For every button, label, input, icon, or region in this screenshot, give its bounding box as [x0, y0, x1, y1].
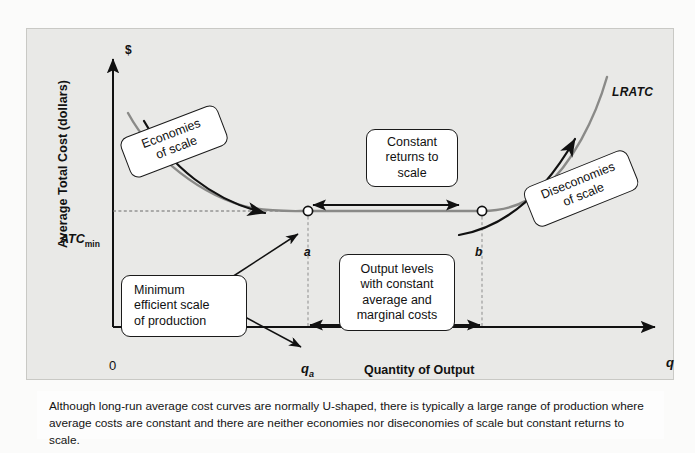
atc-min-subscript: min: [85, 239, 100, 249]
atc-min-tick-label: ATCmin: [60, 232, 100, 249]
callout-minimum-efficient-scale: Minimum efficient scale of production: [121, 275, 247, 337]
callout-output-line-1: Output levels: [349, 262, 445, 277]
callout-mes-line-3: of production: [134, 314, 234, 329]
origin-label: 0: [109, 358, 116, 373]
callout-output-line-2: with constant: [349, 277, 445, 292]
qa-base: q: [301, 361, 309, 376]
callout-constant-line-3: scale: [376, 166, 448, 181]
mes-pointer-arrow-to-a: [232, 234, 298, 277]
lratc-curve-label: LRATC: [612, 85, 653, 99]
callout-output-line-3: average and: [349, 293, 445, 308]
point-b-label: b: [475, 245, 482, 259]
callout-output-line-4: marginal costs: [349, 308, 445, 323]
figure-container: Average Total Cost (dollars) $ q 0 ATCmi…: [0, 0, 695, 453]
qa-tick-label: qa: [301, 361, 314, 379]
x-axis-label: Quantity of Output: [364, 363, 474, 377]
callout-constant-returns-to-scale: Constant returns to scale: [366, 129, 458, 187]
callout-output-levels: Output levels with constant average and …: [339, 254, 455, 331]
y-axis-unit-symbol: $: [125, 43, 132, 57]
point-a-marker: [303, 206, 312, 215]
figure-caption: Although long-run average cost curves ar…: [37, 391, 664, 439]
x-axis-variable-symbol: q: [666, 355, 674, 370]
callout-mes-line-2: efficient scale: [134, 298, 234, 313]
qa-subscript: a: [309, 369, 314, 379]
callout-constant-line-1: Constant: [376, 135, 448, 150]
callout-mes-line-1: Minimum: [134, 283, 234, 298]
atc-min-base: ATC: [60, 232, 85, 246]
plot-panel: Average Total Cost (dollars) $ q 0 ATCmi…: [26, 28, 674, 380]
point-b-marker: [477, 206, 486, 215]
callout-constant-line-2: returns to: [376, 150, 448, 165]
point-a-label: a: [304, 245, 311, 259]
